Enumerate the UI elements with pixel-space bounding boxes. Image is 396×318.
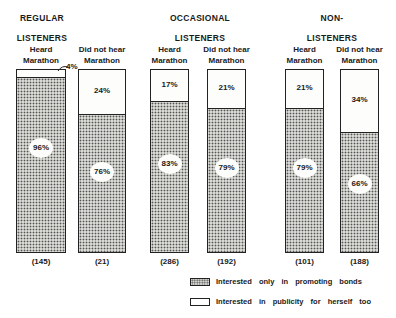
stacked-bar: 17%83% <box>150 69 189 253</box>
segment-promoting-bonds <box>17 78 65 252</box>
legend-swatch-dotted <box>190 278 210 286</box>
bar-label-line1: Heard <box>140 44 200 55</box>
legend-item-publicity: Interested in publicity for herself too <box>190 297 371 306</box>
base-count: (286) <box>145 257 195 266</box>
group-title-occasional: OCCASIONAL LISTENERS <box>152 8 248 48</box>
bar-label-line2: Marathon <box>275 55 335 66</box>
bar-label-line2: Marathon <box>330 55 390 66</box>
pct-label-publicity: 17% <box>151 80 188 89</box>
pct-label-promoting-bonds: 79% <box>293 158 317 178</box>
pct-label-promoting-bonds: 76% <box>90 162 114 182</box>
segment-promoting-bonds <box>286 109 323 252</box>
legend-swatch-white <box>190 298 210 306</box>
bar-label-line1: Did not hear <box>72 44 132 55</box>
base-count: (101) <box>280 257 330 266</box>
pct-label-publicity: 24% <box>79 86 125 95</box>
pct-label-promoting-bonds: 66% <box>348 174 372 194</box>
base-count: (188) <box>335 257 385 266</box>
pct-label-publicity: 21% <box>208 83 245 92</box>
stacked-bar: 21%79% <box>207 69 246 253</box>
bar-label-line2: Marathon <box>140 55 200 66</box>
bar-label: Did not hearMarathon <box>330 44 390 66</box>
pct-label-promoting-bonds: 83% <box>158 154 182 174</box>
pct-label-publicity: 21% <box>286 83 323 92</box>
stacked-bar: 34%66% <box>340 69 379 253</box>
bar-label: HeardMarathon <box>140 44 200 66</box>
bar-label: HeardMarathon <box>275 44 335 66</box>
stacked-bar: 24%76% <box>78 69 126 253</box>
segment-promoting-bonds <box>151 102 188 252</box>
group-title-regular: REGULAR LISTENERS <box>0 8 84 48</box>
base-count: (145) <box>16 257 66 266</box>
pct-label-promoting-bonds: 96% <box>29 138 53 158</box>
base-count: (21) <box>77 257 127 266</box>
bar-label: Did not hearMarathon <box>197 44 257 66</box>
segment-promoting-bonds <box>79 115 125 252</box>
pct-label-promoting-bonds: 79% <box>215 158 239 178</box>
bar-label-line1: Did not hear <box>197 44 257 55</box>
bar-label-line1: Heard <box>275 44 335 55</box>
stacked-bar: 96% <box>16 69 66 253</box>
segment-promoting-bonds <box>208 109 245 252</box>
base-count: (192) <box>202 257 252 266</box>
bar-label-line1: Heard <box>11 44 71 55</box>
group-title-non: NON- LISTENERS <box>290 8 374 48</box>
bar-label-line1: Did not hear <box>330 44 390 55</box>
stacked-bar: 21%79% <box>285 69 324 253</box>
legend-item-promoting-bonds: Interested only in promoting bonds <box>190 277 362 286</box>
pct-label-publicity: 34% <box>341 95 378 104</box>
bar-label-line2: Marathon <box>197 55 257 66</box>
